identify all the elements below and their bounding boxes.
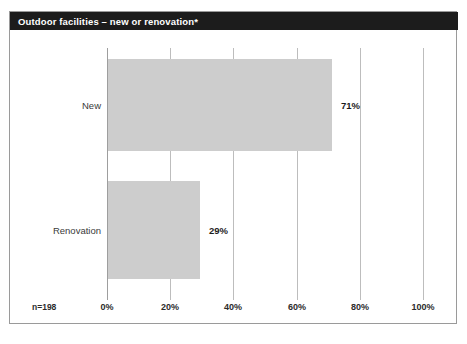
category-label-new: New bbox=[22, 100, 101, 111]
xtick-label-20: 20% bbox=[161, 302, 179, 312]
xtick-label-60: 60% bbox=[288, 302, 306, 312]
xtick-label-0: 0% bbox=[100, 302, 113, 312]
xtick-label-80: 80% bbox=[351, 302, 369, 312]
gridline-100 bbox=[423, 48, 424, 300]
xtick-label-40: 40% bbox=[224, 302, 242, 312]
xtick-label-100: 100% bbox=[411, 302, 434, 312]
bar-renovation bbox=[108, 181, 200, 279]
category-label-renovation: Renovation bbox=[22, 225, 101, 236]
chart-title-bar: Outdoor facilities – new or renovation* bbox=[10, 12, 458, 30]
chart-figure: Outdoor facilities – new or renovation* … bbox=[9, 11, 457, 324]
value-label-new: 71% bbox=[341, 100, 360, 111]
value-label-renovation: 29% bbox=[209, 225, 228, 236]
bar-new bbox=[108, 59, 332, 151]
sample-size-note: n=198 bbox=[32, 302, 56, 312]
gridline-80 bbox=[360, 48, 361, 300]
chart-title: Outdoor facilities – new or renovation* bbox=[18, 16, 198, 27]
plot-area: New Renovation 71% 29% 0% 20% 40% 60% 80… bbox=[10, 30, 458, 324]
